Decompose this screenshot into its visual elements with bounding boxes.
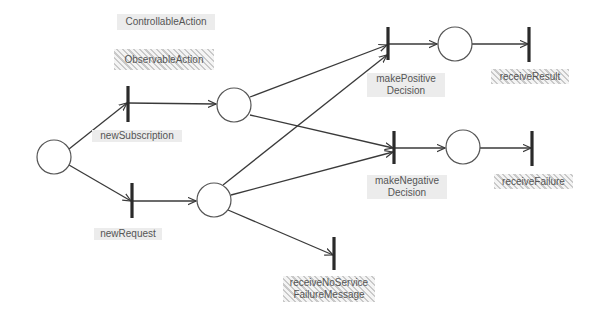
arc-p2-receiveNoService [228, 210, 333, 255]
arc-p0-newSubscription [69, 103, 127, 149]
label-receiveResult: receiveResult [491, 69, 569, 84]
label-line: newRequest [94, 228, 162, 240]
place-start[interactable] [37, 140, 71, 174]
label-line: newSubscription [92, 130, 182, 142]
label-newSubscription: newSubscription [92, 130, 182, 142]
label-receiveNoServiceFailureMessage: receiveNoService FailureMessage [283, 276, 375, 302]
label-line-1: receiveNoService [283, 277, 375, 289]
label-line-1: makeNegative [367, 175, 447, 187]
place-requested[interactable] [197, 183, 231, 217]
label-line-2: Decision [367, 85, 445, 97]
label-makePositiveDecision: makePositive Decision [367, 73, 445, 97]
label-line-2: Decision [367, 187, 447, 199]
label-makeNegativeDecision: makeNegative Decision [367, 175, 447, 199]
legend-controllable-action: ControllableAction [117, 14, 215, 30]
place-positive[interactable] [438, 27, 472, 61]
label-newRequest: newRequest [94, 228, 162, 240]
label-line: receiveResult [491, 69, 569, 84]
label-receiveFailure: receiveFailure [494, 174, 573, 189]
legend-observable-action: ObservableAction [114, 49, 214, 70]
arc-p0-newRequest [69, 165, 131, 201]
label-line-1: makePositive [367, 73, 445, 85]
label-line: receiveFailure [494, 174, 573, 189]
label-line-2: FailureMessage [283, 289, 375, 301]
place-negative[interactable] [446, 130, 480, 164]
arc-newSubscription-p1 [128, 103, 216, 104]
arc-p2-makePositive [223, 55, 387, 185]
arc-p1-makeNegative [250, 115, 393, 148]
place-subscribed[interactable] [217, 88, 251, 122]
